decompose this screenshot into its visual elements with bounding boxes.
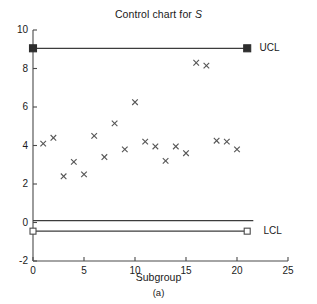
data-point (173, 144, 179, 150)
y-tick-label: 6 (6, 101, 28, 112)
data-point (204, 63, 210, 69)
ucl-label: UCL (259, 42, 279, 53)
data-point (224, 139, 230, 145)
axis-lines (33, 30, 288, 261)
data-point (81, 172, 87, 178)
lcl-square-marker (30, 228, 36, 234)
y-tick-label: 8 (6, 63, 28, 74)
data-point (234, 147, 240, 153)
y-tick-label: 0 (6, 217, 28, 228)
data-point (40, 141, 46, 147)
ucl-square-marker (30, 45, 37, 52)
ucl-square-marker (244, 45, 251, 52)
data-point (71, 159, 77, 165)
tick-marks (33, 30, 288, 261)
data-point (153, 144, 159, 150)
data-point (193, 60, 199, 66)
data-point (102, 154, 108, 160)
data-point (132, 99, 138, 105)
data-point-markers (40, 60, 239, 179)
data-point (142, 139, 148, 145)
y-tick-label: 2 (6, 178, 28, 189)
data-point (163, 158, 169, 164)
data-point (112, 121, 118, 127)
data-point (214, 138, 220, 144)
data-point (122, 147, 128, 153)
control-chart-figure: Control chart for S -20246810 0510152025… (0, 0, 317, 304)
y-tick-label: 4 (6, 140, 28, 151)
data-point (61, 174, 67, 180)
data-point (91, 133, 97, 139)
data-point (183, 150, 189, 156)
figure-caption: (a) (0, 287, 317, 298)
y-tick-label: 10 (6, 24, 28, 35)
x-axis-title: Subgroup (0, 271, 317, 283)
lcl-label: LCL (264, 225, 282, 236)
lcl-square-marker (244, 228, 250, 234)
data-point (51, 135, 57, 141)
